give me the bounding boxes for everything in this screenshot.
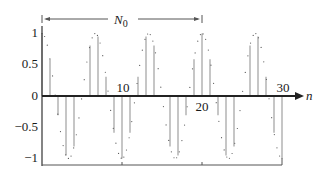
y-tick-0.5: 0.5 [22,56,38,71]
y-tick-neg1: −1 [24,150,38,165]
y-tick-neg0.5: −0.5 [14,119,38,134]
x-axis-label: n [306,88,313,103]
x-tick-30: 30 [277,80,290,95]
x-axis-arrow-icon [295,92,304,100]
y-tick-0: 0 [32,88,39,103]
arrow-right-icon [194,17,200,21]
period-annotation: N0 [42,12,202,29]
arrow-left-icon [44,17,50,21]
period-label: N0 [113,12,128,29]
y-tick-1: 1 [32,25,39,40]
x-tick-10: 10 [117,80,130,95]
stem-plot: n 1 0.5 0 −0.5 −1 10 20 30 N0 [0,0,319,176]
x-tick-20: 20 [196,99,209,114]
